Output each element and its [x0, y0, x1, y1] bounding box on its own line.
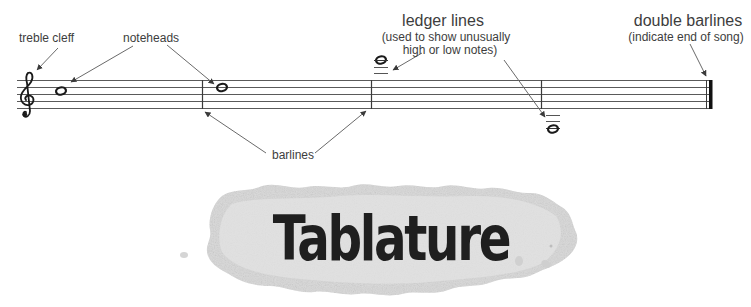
- label-ledger-lines: ledger lines: [402, 13, 484, 29]
- high-ledger-note-icon: [374, 55, 388, 73]
- splatter-speck: [550, 245, 553, 248]
- arrow-notehead-1: [71, 46, 133, 82]
- arrow-barline-1: [205, 112, 266, 153]
- label-ledger-lines-desc-1: (used to show unusually: [382, 30, 511, 44]
- arrow-double-barline: [690, 44, 706, 76]
- tablature-title-text: Tablature: [273, 208, 509, 270]
- tablature-title: Tablature: [239, 208, 542, 270]
- staff: [17, 81, 712, 109]
- low-ledger-note-icon: [546, 116, 560, 134]
- label-barlines: barlines: [272, 149, 314, 161]
- label-treble-clef: treble cleff: [19, 32, 74, 44]
- label-double-barlines: double barlines: [634, 13, 743, 29]
- arrow-barline-2: [315, 111, 366, 153]
- label-double-barlines-desc: (indicate end of song): [628, 30, 743, 44]
- splatter-speck: [180, 252, 188, 258]
- music-notation-diagram: treble cleff noteheads ledger lines (use…: [0, 0, 751, 307]
- label-ledger-lines-desc-2: high or low notes): [403, 43, 498, 57]
- label-noteheads: noteheads: [123, 32, 179, 44]
- arrow-notehead-2: [167, 45, 214, 84]
- whole-note-icon: [55, 86, 66, 95]
- arrow-treble-clef: [37, 48, 58, 70]
- splatter-speck: [208, 250, 211, 253]
